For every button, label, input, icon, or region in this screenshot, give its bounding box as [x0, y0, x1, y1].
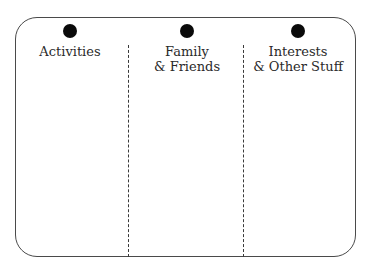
column-divider-1: [128, 45, 129, 257]
heading-line-1: Family: [127, 44, 247, 59]
heading-line-2: & Other Stuff: [238, 59, 358, 74]
heading-line-1: Activities: [10, 44, 130, 59]
column-heading-family-friends: Family & Friends: [127, 44, 247, 74]
bullet-dot-icon: [180, 24, 194, 38]
heading-line-1: Interests: [238, 44, 358, 59]
heading-line-2: & Friends: [127, 59, 247, 74]
column-heading-activities: Activities: [10, 44, 130, 59]
bullet-dot-icon: [63, 24, 77, 38]
column-heading-interests: Interests & Other Stuff: [238, 44, 358, 74]
bullet-dot-icon: [291, 24, 305, 38]
column-divider-2: [243, 45, 244, 257]
